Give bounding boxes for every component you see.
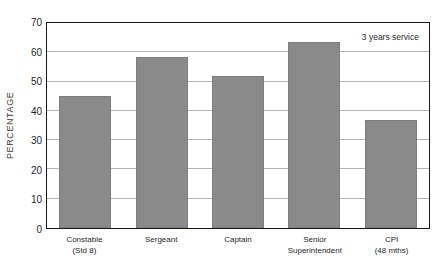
x-axis-tick-label-line1: Sergeant xyxy=(123,234,199,245)
y-axis-tick-label: 40 xyxy=(31,105,42,116)
y-axis-tick-label: 10 xyxy=(31,194,42,205)
x-axis-tick-label: Sergeant xyxy=(123,234,199,245)
annotation-label: 3 years service xyxy=(362,32,419,42)
x-axis-tick-labels: Constable(Std 8)SergeantCaptainSeniorSup… xyxy=(46,234,430,268)
y-axis-tick-label: 50 xyxy=(31,76,42,87)
x-axis-tick-label-line2: (Std 8) xyxy=(46,245,122,256)
y-axis-title: PERCENTAGE xyxy=(2,60,18,190)
bar xyxy=(136,57,188,228)
x-axis-tick-label-line2: (48 mths) xyxy=(354,245,430,256)
y-axis-tick-label: 20 xyxy=(31,164,42,175)
plot-area: 3 years service xyxy=(46,22,430,229)
x-axis-tick-label-line1: CPI xyxy=(354,234,430,245)
bar xyxy=(365,120,417,228)
y-axis-tick-label: 60 xyxy=(31,46,42,57)
bar-series xyxy=(47,23,429,228)
y-axis-tick-labels: 706050403020100 xyxy=(18,22,42,229)
y-axis-tick-label: 70 xyxy=(31,17,42,28)
x-axis-tick-label-line1: Senior xyxy=(277,234,353,245)
x-axis-tick-label-line1: Constable xyxy=(46,234,122,245)
bar xyxy=(212,76,264,228)
bar xyxy=(59,96,111,228)
x-axis-tick-label-line2: Superintendent xyxy=(277,245,353,256)
x-axis-tick-label: CPI(48 mths) xyxy=(354,234,430,256)
x-axis-tick-label: Constable(Std 8) xyxy=(46,234,122,256)
x-axis-tick-label: Captain xyxy=(200,234,276,245)
x-axis-tick-label: SeniorSuperintendent xyxy=(277,234,353,256)
y-axis-tick-label: 30 xyxy=(31,135,42,146)
x-axis-tick-label-line1: Captain xyxy=(200,234,276,245)
bar-chart-figure: PERCENTAGE 706050403020100 3 years servi… xyxy=(0,0,440,270)
y-axis-tick-label: 0 xyxy=(36,224,42,235)
bar xyxy=(288,42,340,228)
